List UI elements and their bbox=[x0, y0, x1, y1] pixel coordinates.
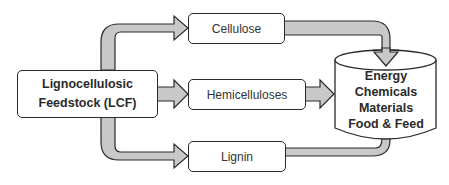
lcf-box: Lignocellulosic Feedstock (LCF) bbox=[17, 70, 158, 118]
hemicelluloses-label: Hemicelluloses bbox=[207, 88, 288, 102]
product-chemicals: Chemicals bbox=[335, 84, 437, 100]
cellulose-box: Cellulose bbox=[188, 13, 285, 44]
lcf-label-line1: Lignocellulosic bbox=[42, 75, 133, 94]
hemicelluloses-box: Hemicelluloses bbox=[188, 79, 306, 110]
arrow-lcf-to-hemicelluloses bbox=[157, 80, 188, 108]
lignin-box: Lignin bbox=[188, 141, 286, 172]
product-materials: Materials bbox=[335, 100, 437, 116]
product-energy: Energy bbox=[335, 68, 437, 84]
arrow-lcf-to-lignin bbox=[101, 117, 188, 168]
products-list: Energy Chemicals Materials Food & Feed bbox=[335, 68, 437, 132]
lignin-label: Lignin bbox=[221, 150, 253, 164]
product-food-feed: Food & Feed bbox=[335, 116, 437, 132]
cellulose-label: Cellulose bbox=[212, 22, 261, 36]
arrow-lcf-to-cellulose bbox=[101, 16, 188, 70]
lcf-label-line2: Feedstock (LCF) bbox=[39, 94, 137, 113]
arrow-hemicelluloses-to-products bbox=[305, 80, 334, 108]
